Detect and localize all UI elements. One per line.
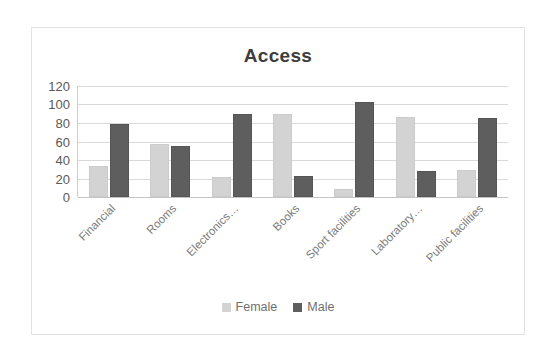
bar-male[interactable] xyxy=(417,171,436,197)
bar-female[interactable] xyxy=(396,117,415,197)
female-swatch-icon xyxy=(222,303,231,312)
bar-female[interactable] xyxy=(334,189,353,197)
chart-legend: FemaleMale xyxy=(32,300,524,314)
bar-male[interactable] xyxy=(478,118,497,197)
bar-group xyxy=(324,86,385,197)
bar-group xyxy=(385,86,446,197)
category-label: Books xyxy=(270,202,301,233)
x-axis-category-labels: FinancialRoomsElectronics…BooksSport fac… xyxy=(78,198,508,288)
legend-item-male[interactable]: Male xyxy=(293,300,334,314)
bar-female[interactable] xyxy=(89,166,108,197)
y-tick-label-100: 100 xyxy=(36,97,70,112)
bars-layer xyxy=(78,86,508,197)
bar-group xyxy=(78,86,139,197)
bar-group xyxy=(447,86,508,197)
y-tick-label-60: 60 xyxy=(36,134,70,149)
legend-label: Male xyxy=(307,300,334,314)
bar-female[interactable] xyxy=(150,144,169,197)
y-tick-label-80: 80 xyxy=(36,115,70,130)
chart-title: Access xyxy=(32,45,524,67)
bar-group xyxy=(262,86,323,197)
y-tick-label-20: 20 xyxy=(36,171,70,186)
category-label: Financial xyxy=(76,202,117,243)
category-label-slot: Electronics… xyxy=(201,198,262,288)
bar-male[interactable] xyxy=(233,114,252,197)
bar-male[interactable] xyxy=(294,176,313,197)
y-tick-label-0: 0 xyxy=(36,190,70,205)
chart-container: Access 020406080100120 FinancialRoomsEle… xyxy=(31,27,525,335)
category-label: Rooms xyxy=(144,202,178,236)
bar-group xyxy=(201,86,262,197)
category-label-slot: Financial xyxy=(78,198,139,288)
male-swatch-icon xyxy=(293,303,302,312)
y-tick-label-120: 120 xyxy=(36,79,70,94)
legend-item-female[interactable]: Female xyxy=(222,300,278,314)
bar-male[interactable] xyxy=(171,146,190,197)
legend-label: Female xyxy=(236,300,278,314)
bar-male[interactable] xyxy=(355,102,374,197)
bar-male[interactable] xyxy=(110,124,129,197)
plot-area: 020406080100120 xyxy=(78,86,508,197)
bar-female[interactable] xyxy=(212,177,231,197)
bar-group xyxy=(139,86,200,197)
y-tick-label-40: 40 xyxy=(36,152,70,167)
category-label-slot: Public facilities xyxy=(447,198,508,288)
bar-female[interactable] xyxy=(457,170,476,197)
bar-female[interactable] xyxy=(273,114,292,197)
